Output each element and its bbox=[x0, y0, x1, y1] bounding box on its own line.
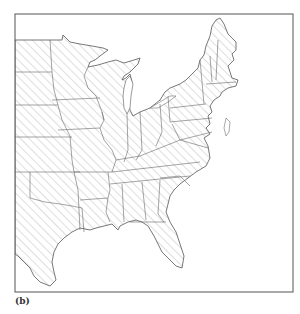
figure-caption: (b) bbox=[15, 296, 30, 306]
map-svg bbox=[0, 0, 300, 300]
chesapeake-bay bbox=[224, 118, 230, 136]
map-figure bbox=[0, 0, 300, 300]
land-area bbox=[15, 18, 238, 286]
